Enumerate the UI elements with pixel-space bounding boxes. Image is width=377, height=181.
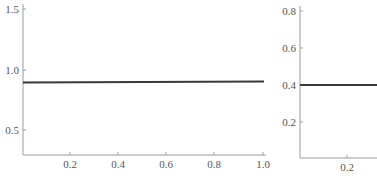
left-y-tick-label: 1.0 xyxy=(5,64,19,76)
left-x-tick-label: 0.8 xyxy=(207,158,221,170)
chart-canvas: 1.5 1.0 0.5 0.2 0.4 0.6 0.8 1.0 0.8 0.6 … xyxy=(0,0,377,181)
left-y-tick-label: 1.5 xyxy=(5,3,19,15)
left-chart: 1.5 1.0 0.5 0.2 0.4 0.6 0.8 1.0 xyxy=(5,3,270,170)
left-x-tick-label: 0.4 xyxy=(111,158,125,170)
left-x-tick-label: 0.6 xyxy=(159,158,173,170)
right-y-tick-label: 0.8 xyxy=(282,5,296,17)
right-chart: 0.8 0.6 0.4 0.2 0.2 xyxy=(282,5,377,173)
left-x-tick-label: 0.2 xyxy=(63,158,77,170)
right-y-tick-label: 0.6 xyxy=(282,42,296,54)
left-y-tick-label: 0.5 xyxy=(5,124,19,136)
right-y-tick-label: 0.2 xyxy=(282,116,296,128)
right-y-tick-label: 0.4 xyxy=(282,79,296,91)
left-x-tick-label: 1.0 xyxy=(256,158,270,170)
left-series-line xyxy=(23,82,264,83)
right-x-tick-label: 0.2 xyxy=(340,161,354,173)
